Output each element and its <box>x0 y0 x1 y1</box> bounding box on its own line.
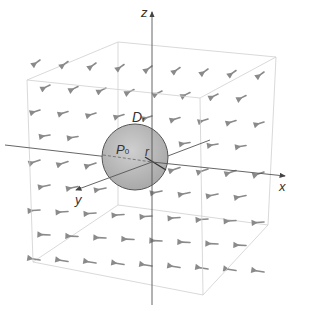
field-arrow <box>88 262 96 263</box>
field-arrow <box>45 85 50 87</box>
field-arrow <box>256 222 264 223</box>
field-arrow <box>172 266 180 267</box>
field-arrow <box>228 221 236 222</box>
field-arrow <box>60 260 68 261</box>
field-arrow <box>43 185 50 186</box>
field-arrow <box>71 187 78 188</box>
region-subscript: r <box>142 115 145 124</box>
field-arrow <box>228 269 236 270</box>
field-arrow <box>232 71 236 74</box>
y-axis-label: y <box>75 193 82 206</box>
field-arrow <box>36 60 40 63</box>
field-arrow <box>33 160 40 162</box>
field-arrow <box>185 93 190 95</box>
region-letter: D <box>132 109 142 125</box>
field-arrow <box>258 122 264 124</box>
x-axis <box>152 162 285 176</box>
field-arrow <box>260 72 264 75</box>
field-arrow <box>155 191 162 192</box>
field-arrow <box>240 146 246 147</box>
field-arrow <box>200 268 208 269</box>
sphere-D-r <box>102 124 168 190</box>
field-arrow <box>213 94 218 96</box>
field-arrow <box>211 194 218 195</box>
field-arrow <box>230 121 236 123</box>
point-label: P0 <box>116 143 129 156</box>
point-letter: P <box>116 142 125 157</box>
field-arrow <box>172 218 180 219</box>
field-arrow <box>116 215 124 216</box>
field-arrow <box>148 66 152 69</box>
field-arrow <box>120 65 124 68</box>
z-axis-label: z <box>141 6 148 19</box>
field-arrow <box>146 116 152 118</box>
field-arrow <box>73 87 78 89</box>
x-axis-label: x <box>279 180 286 193</box>
field-arrow <box>116 263 124 264</box>
field-arrow <box>183 193 190 194</box>
field-arrow <box>72 137 78 138</box>
field-arrow <box>176 68 180 71</box>
field-arrow <box>92 63 96 66</box>
field-arrow <box>174 118 180 120</box>
point-subscript: 0 <box>125 147 129 156</box>
field-arrow <box>89 163 96 165</box>
field-arrow <box>118 115 124 117</box>
field-arrow <box>62 112 68 114</box>
field-arrow <box>212 144 218 145</box>
field-arrow <box>173 168 180 170</box>
radius-label: r <box>145 146 149 158</box>
field-arrow <box>202 119 208 121</box>
field-arrow <box>184 143 190 144</box>
field-arrow <box>90 113 96 115</box>
field-arrow <box>44 135 50 136</box>
field-arrow <box>88 213 96 214</box>
field-arrow <box>32 210 40 211</box>
field-arrow <box>61 162 68 164</box>
field-arrow <box>256 271 264 272</box>
field-arrow <box>99 188 106 189</box>
region-label: Dr <box>132 110 145 124</box>
field-arrow <box>34 110 40 112</box>
field-arrow <box>201 169 208 171</box>
field-arrow <box>239 196 246 197</box>
field-arrow <box>204 69 208 72</box>
field-arrow <box>144 265 152 266</box>
field-arrow <box>157 91 162 93</box>
field-arrow <box>60 212 68 213</box>
field-arrow <box>144 216 152 217</box>
field-arrow <box>241 96 246 98</box>
